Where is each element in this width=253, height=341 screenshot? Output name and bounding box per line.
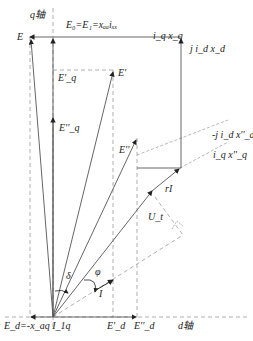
label-jidxd-double: -j i_d x''_d [212, 130, 253, 140]
label-iqxq: i_q x_q [153, 31, 183, 41]
label-phi: φ [95, 267, 101, 277]
label-Ed: E_d=-x_aq I_1q [4, 321, 70, 331]
label-Ed-prime: E'_d [107, 321, 125, 331]
label-E-prime: E' [118, 68, 126, 78]
q-axis-label: q轴 [30, 10, 45, 20]
label-E: E [17, 32, 23, 42]
label-Eq-top: E₀=E₁=xₐₐiₓₓ [66, 20, 117, 30]
label-rI: rI [165, 184, 172, 194]
phasor-diagram: q轴 d轴 E E₀=E₁=xₐₐiₓₓ i_q x_q j i_d x_d E… [0, 0, 253, 341]
label-jidxd: j i_d x_d [190, 44, 225, 54]
label-delta: δ [66, 271, 71, 281]
label-Ut: U_t [148, 212, 163, 222]
d-axis-label: d轴 [178, 321, 193, 331]
label-E-double: E'' [119, 145, 129, 155]
label-iqxq-double: i_q x''_q [213, 150, 247, 160]
label-Eq-prime: E'_q [58, 73, 76, 83]
label-Eq-double: E''_q [59, 123, 79, 133]
label-Ed-double: E''_d [134, 321, 154, 331]
label-I: I [99, 289, 102, 299]
